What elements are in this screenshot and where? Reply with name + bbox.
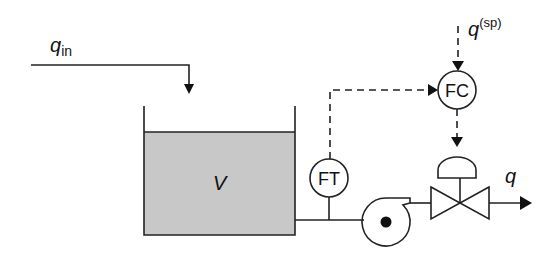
process-diagram: qin V FT FC q(sp) q bbox=[0, 0, 557, 260]
pump bbox=[362, 198, 410, 246]
inflow-stream: qin bbox=[31, 34, 189, 92]
measurement-signal bbox=[330, 90, 430, 159]
outflow-arrow-icon bbox=[520, 196, 532, 210]
control-valve bbox=[431, 157, 489, 219]
setpoint-arrow-icon bbox=[452, 61, 464, 71]
ft-label: FT bbox=[318, 169, 340, 189]
control-arrow-icon bbox=[451, 137, 463, 147]
fc-label: FC bbox=[445, 81, 469, 101]
tank: V bbox=[144, 106, 295, 235]
valve-actuator bbox=[438, 157, 476, 178]
setpoint-label: q(sp) bbox=[468, 15, 502, 40]
measurement-arrow-icon bbox=[428, 84, 438, 96]
tank-volume-label: V bbox=[213, 172, 228, 194]
flow-controller: FC bbox=[438, 71, 476, 109]
pump-impeller-icon bbox=[381, 217, 392, 228]
flow-transmitter: FT bbox=[310, 159, 348, 197]
outflow-label: q bbox=[505, 165, 516, 187]
inflow-label: qin bbox=[50, 34, 72, 59]
